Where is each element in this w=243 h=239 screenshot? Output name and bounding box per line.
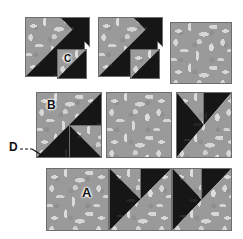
row1-solid-print-square xyxy=(170,22,232,84)
label-c: C xyxy=(64,54,71,64)
row2-solid-print-square xyxy=(106,92,172,158)
block-a-solid-print-square xyxy=(46,168,109,231)
quilt-diagram-canvas: A B C D xyxy=(0,0,243,239)
label-b: B xyxy=(47,99,56,111)
label-a: A xyxy=(82,186,91,199)
label-d: D xyxy=(9,141,18,153)
